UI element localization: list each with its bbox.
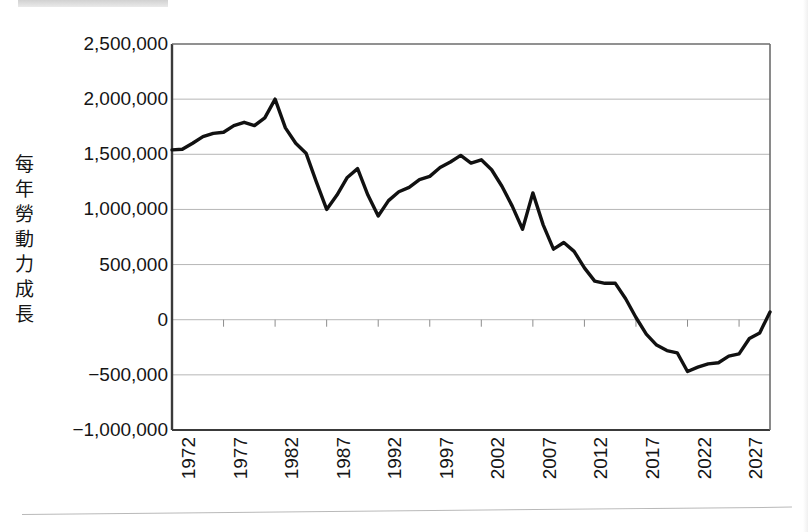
- series-line: [172, 99, 770, 371]
- data-line-series: [172, 99, 770, 371]
- plot-svg: [0, 0, 808, 532]
- x-axis-tick-marks: [172, 320, 739, 327]
- gridlines: [172, 99, 770, 375]
- chart-figure: 每年勞動力成長 2,500,0002,000,0001,500,0001,000…: [0, 0, 808, 532]
- plot-frame: [172, 44, 770, 430]
